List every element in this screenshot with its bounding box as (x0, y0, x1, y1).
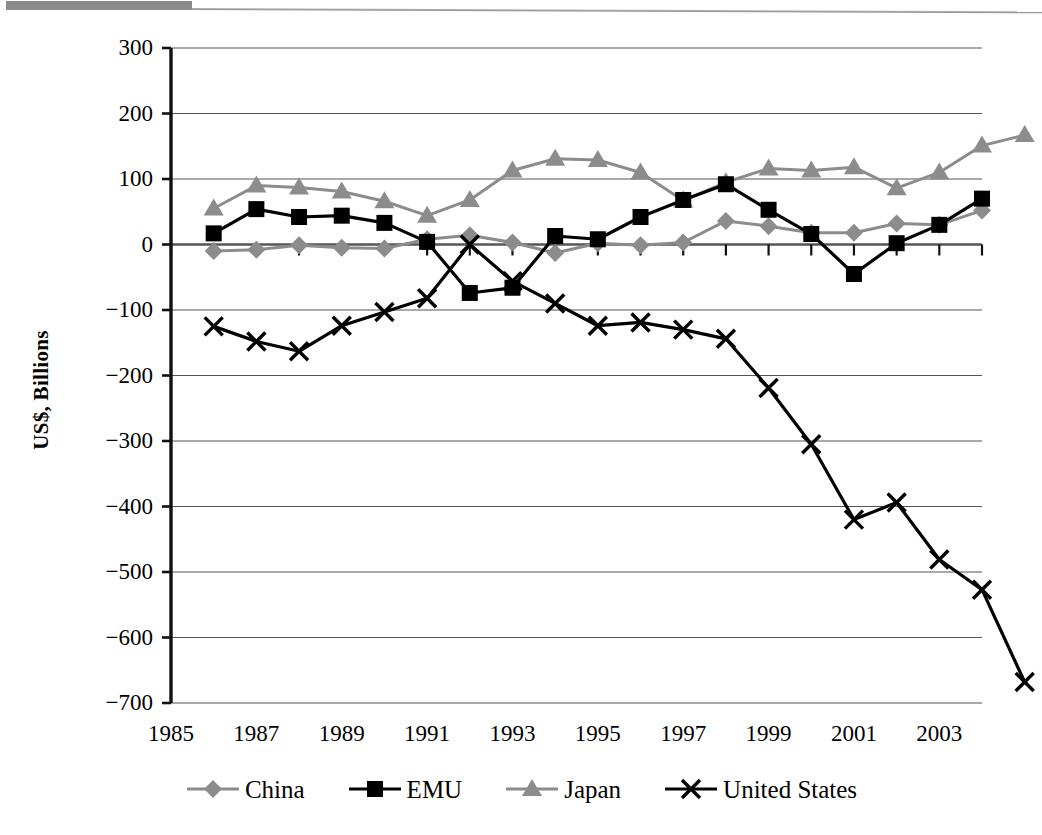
data-point-marker (248, 201, 264, 217)
square-marker (803, 226, 819, 242)
data-point-marker (503, 234, 521, 252)
legend-marker-square-icon (347, 775, 403, 803)
chart-figure: US$, Billions 3002001000−100−200−300−400… (0, 0, 1042, 835)
y-tick-label: 0 (53, 233, 153, 256)
triangle-marker (1015, 125, 1035, 142)
triangle-marker (545, 149, 565, 166)
diamond-marker (546, 244, 564, 262)
legend-label: United States (723, 777, 857, 802)
square-marker (367, 781, 383, 797)
diamond-marker (632, 236, 650, 254)
diamond-marker (845, 224, 863, 242)
legend-entry-japan[interactable]: Japan (504, 775, 621, 803)
y-tick-label: 100 (53, 167, 153, 190)
data-point-marker (375, 239, 393, 257)
square-marker (462, 285, 478, 301)
legend-marker-x-icon (663, 775, 719, 803)
data-point-marker (846, 266, 862, 282)
square-marker (718, 176, 734, 192)
legend-label: China (245, 777, 305, 802)
square-marker (889, 235, 905, 251)
y-tick-label: 200 (53, 102, 153, 125)
diamond-marker (760, 217, 778, 235)
square-marker (206, 225, 222, 241)
legend-label: EMU (407, 777, 463, 802)
data-point-marker (547, 228, 563, 244)
square-marker (974, 191, 990, 207)
data-point-marker (888, 494, 906, 512)
data-point-marker (1016, 673, 1034, 691)
data-point-marker (419, 234, 435, 250)
data-point-marker (204, 780, 222, 798)
data-point-marker (205, 317, 223, 335)
series-line-japan (214, 135, 1025, 216)
square-marker (291, 209, 307, 225)
data-point-marker (931, 217, 947, 233)
data-point-marker (888, 215, 906, 233)
data-point-marker (760, 379, 778, 397)
triangle-marker (844, 157, 864, 174)
triangle-marker (460, 190, 480, 207)
y-tick-label: −300 (53, 429, 153, 452)
data-point-marker (291, 209, 307, 225)
diamond-marker (717, 212, 735, 230)
data-point-marker (632, 236, 650, 254)
y-tick-label: −700 (53, 691, 153, 714)
square-marker (931, 217, 947, 233)
square-marker (334, 208, 350, 224)
data-point-marker (845, 511, 863, 529)
data-point-marker (290, 236, 308, 254)
triangle-marker (929, 162, 949, 179)
diamond-marker (461, 226, 479, 244)
diamond-marker (204, 780, 222, 798)
diamond-marker (674, 234, 692, 252)
triangle-marker (759, 159, 779, 176)
triangle-marker (204, 198, 224, 215)
square-marker (419, 234, 435, 250)
data-point-marker (759, 159, 779, 176)
plot-area (0, 0, 1042, 760)
y-tick-label: −600 (53, 626, 153, 649)
data-point-marker (718, 176, 734, 192)
legend-entry-china[interactable]: China (185, 775, 305, 803)
diamond-marker (375, 239, 393, 257)
data-point-marker (803, 226, 819, 242)
square-marker (248, 201, 264, 217)
legend-entry-united-states[interactable]: United States (663, 775, 857, 803)
data-point-marker (462, 285, 478, 301)
y-tick-label: −100 (53, 298, 153, 321)
data-point-marker (367, 781, 383, 797)
square-marker (547, 228, 563, 244)
data-point-marker (633, 209, 649, 225)
data-point-marker (674, 234, 692, 252)
y-tick-label: −200 (53, 364, 153, 387)
data-point-marker (590, 231, 606, 247)
data-point-marker (376, 215, 392, 231)
x-tick-label: 2003 (884, 722, 994, 745)
y-tick-label: −500 (53, 560, 153, 583)
data-point-marker (974, 191, 990, 207)
data-point-marker (973, 581, 991, 599)
triangle-marker (246, 176, 266, 193)
square-marker (675, 192, 691, 208)
data-point-marker (761, 202, 777, 218)
data-point-marker (460, 190, 480, 207)
square-marker (633, 209, 649, 225)
diamond-marker (290, 236, 308, 254)
legend-entry-emu[interactable]: EMU (347, 775, 463, 803)
legend-marker-diamond-icon (185, 775, 241, 803)
data-point-marker (717, 212, 735, 230)
square-marker (846, 266, 862, 282)
data-point-marker (889, 235, 905, 251)
square-marker (376, 215, 392, 231)
y-tick-label: −400 (53, 495, 153, 518)
diamond-marker (888, 215, 906, 233)
data-point-marker (418, 289, 436, 307)
square-marker (761, 202, 777, 218)
y-tick-label: 300 (53, 36, 153, 59)
data-point-marker (546, 244, 564, 262)
data-point-marker (206, 225, 222, 241)
square-marker (590, 231, 606, 247)
legend-marker-triangle-icon (504, 775, 560, 803)
legend-label: Japan (564, 777, 621, 802)
